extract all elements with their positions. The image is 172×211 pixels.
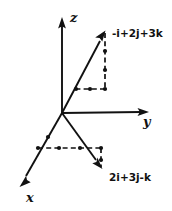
z-axis-label: z [69,10,78,25]
dot-lower-drop-1 [99,158,103,162]
dot-upper-horizontal-1 [88,87,92,91]
y-axis-line [62,112,141,113]
dot-upper-vertical-1 [103,87,107,91]
dot-x-axis-1 [46,135,50,139]
vector-diagram-canvas: z y x -i+2j+3k 2i+3j-k [0,0,172,211]
axes-group [20,17,150,187]
dot-upper-vertical-2 [103,68,107,72]
x-axis-line [26,113,62,176]
dot-lower-plane-2 [57,146,61,150]
y-axis [62,108,149,116]
y-axis-label: y [142,114,152,129]
vector-diagram-figure: z y x -i+2j+3k 2i+3j-k [0,0,172,211]
dot-lower-plane-4 [99,146,103,150]
x-axis [20,113,63,187]
dot-upper-vertical-3 [103,49,107,53]
vector-upper-line [62,41,100,113]
z-axis [58,17,66,113]
vector-upper-group [62,31,106,114]
vector-upper-label: -i+2j+3k [112,27,164,39]
vector-upper-arrowhead [95,31,105,42]
dot-lower-plane-3 [78,146,82,150]
dot-upper-horizontal-2 [74,87,78,91]
dot-lower-plane-1 [36,146,40,150]
marker-dots-group [36,49,107,162]
vector-lower-group [38,113,103,169]
x-axis-arrowhead [20,176,31,187]
x-axis-label: x [25,190,34,205]
vector-lower-line [62,113,96,160]
vector-lower-label: 2i+3j-k [109,171,152,183]
